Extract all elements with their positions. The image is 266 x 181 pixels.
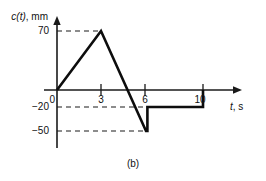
y-axis-label-unit: , mm: [26, 11, 48, 22]
x-axis-label: t, s: [230, 101, 243, 112]
figure-caption: (b): [0, 158, 266, 169]
xtick-label-3: 3: [98, 94, 104, 105]
y-axis-label-var: c(t): [11, 11, 25, 22]
y-axis-label: c(t), mm: [11, 11, 48, 22]
ytick-label-0: 0: [49, 94, 55, 105]
x-axis-arrow-icon: [233, 86, 242, 93]
xtick-label-6: 6: [142, 94, 148, 105]
x-axis-label-unit: , s: [233, 101, 244, 112]
xtick-label-10: 10: [194, 94, 206, 105]
ytick-label-70: 70: [38, 25, 50, 36]
figure-panel: 70 0 −20 −50 3 6 10 c(t), mm t, s: [0, 0, 266, 181]
y-axis-arrow-icon: [53, 16, 60, 25]
signal-curve: [57, 31, 203, 131]
ytick-label-minus20: −20: [32, 101, 49, 112]
ytick-label-minus50: −50: [32, 125, 49, 136]
chart-svg: 70 0 −20 −50 3 6 10 c(t), mm t, s: [0, 0, 266, 181]
